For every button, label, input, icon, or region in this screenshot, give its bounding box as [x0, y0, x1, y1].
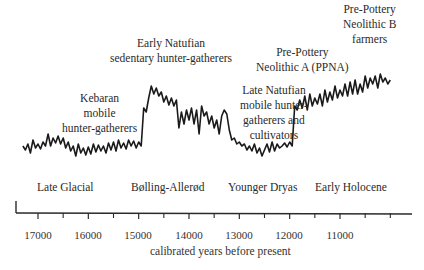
- period-early-holocene: Early Holocene: [315, 180, 387, 195]
- tick-label-15000: 15000: [124, 229, 152, 241]
- tick-label-14000: 14000: [175, 229, 203, 241]
- annotation-ppna: Pre-Pottery Neolithic A (PPNA): [256, 45, 349, 75]
- annotation-line: mobile: [62, 106, 137, 121]
- period-late-glacial: Late Glacial: [37, 180, 94, 195]
- tick-label-12000: 12000: [275, 229, 303, 241]
- annotation-kebaran: Kebaran mobile hunter-gatherers: [62, 91, 137, 136]
- tick-label-17000: 17000: [24, 229, 52, 241]
- period-younger-dryas: Younger Dryas: [228, 180, 297, 195]
- annotation-early-natufian: Early Natufian sedentary hunter-gatherer…: [110, 36, 232, 66]
- annotation-line: cultivators: [240, 128, 308, 143]
- annotation-line: Pre-Pottery: [256, 45, 349, 60]
- annotation-line: Kebaran: [62, 91, 137, 106]
- annotation-line: Neolithic A (PPNA): [256, 60, 349, 75]
- annotation-line: gatherers and: [240, 113, 308, 128]
- tick-label-11000: 11000: [326, 229, 353, 241]
- annotation-line: Pre-Pottery: [343, 2, 396, 17]
- annotation-line: sedentary hunter-gatherers: [110, 51, 232, 66]
- x-axis: [16, 201, 412, 219]
- period-bolling-allerod: Bølling-Allerød: [131, 180, 204, 195]
- tick-label-16000: 16000: [74, 229, 102, 241]
- annotation-line: farmers: [343, 32, 396, 47]
- annotation-line: Early Natufian: [110, 36, 232, 51]
- annotation-line: mobile hunter-: [240, 98, 308, 113]
- annotation-line: hunter-gatherers: [62, 121, 137, 136]
- annotation-line: Late Natufian: [240, 83, 308, 98]
- tick-label-13000: 13000: [225, 229, 253, 241]
- annotation-late-natufian: Late Natufian mobile hunter- gatherers a…: [240, 83, 308, 143]
- annotation-line: Neolithic B: [343, 17, 396, 32]
- annotation-ppnb: Pre-Pottery Neolithic B farmers: [343, 2, 396, 47]
- x-axis-label: calibrated years before present: [150, 245, 291, 257]
